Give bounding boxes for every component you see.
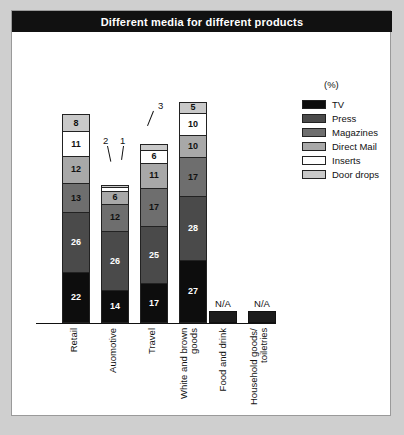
na-label-food-and-drink: N/A <box>206 298 240 309</box>
bar-travel: 611172517 <box>140 144 168 323</box>
unit-label: (%) <box>324 79 392 90</box>
callout-leader-2 <box>107 146 111 162</box>
legend-label-press: Press <box>332 113 356 124</box>
segment-white-and-brown-goods-inserts: 10 <box>179 113 207 136</box>
legend-swatch-door-drops <box>302 170 326 179</box>
segment-retail-direct-mail: 12 <box>62 156 90 184</box>
segment-travel-direct-mail: 11 <box>140 163 168 189</box>
callout-label-1: 1 <box>120 135 125 146</box>
segment-auomotive-magazines: 12 <box>101 204 129 232</box>
legend-item-inserts: Inserts <box>302 155 392 166</box>
segment-white-and-brown-goods-tv: 27 <box>179 260 207 323</box>
plot-area: 81112132622612261461117251751010172827 2… <box>12 32 392 416</box>
x-label-household-goods: Household goods/ toiletries <box>249 328 269 416</box>
x-label-food-and-drink: Food and drink <box>218 328 228 391</box>
segment-white-and-brown-goods-magazines: 17 <box>179 157 207 197</box>
chart-panel: Different media for different products 8… <box>11 10 391 416</box>
callout-leader-3 <box>147 111 154 126</box>
legend-swatch-tv <box>302 100 326 109</box>
legend-swatch-press <box>302 114 326 123</box>
segment-retail-door-drops: 8 <box>62 114 90 133</box>
chart-title-bar: Different media for different products <box>12 11 392 32</box>
segment-travel-press: 25 <box>140 226 168 284</box>
bar-retail: 81112132622 <box>62 114 90 323</box>
callout-label-3: 3 <box>158 100 163 111</box>
legend: (%) TV Press Magazines Direct Mail <box>302 79 392 183</box>
legend-label-direct-mail: Direct Mail <box>332 141 377 152</box>
bar-auomotive: 6122614 <box>101 185 129 323</box>
x-label-automotive: Auomotive <box>108 328 118 373</box>
callout-label-2: 2 <box>103 135 108 146</box>
na-label-household-goods: N/A <box>245 298 279 309</box>
segment-retail-tv: 22 <box>62 272 90 323</box>
x-label-retail: Retail <box>69 328 79 352</box>
callout-leader-1 <box>121 146 124 160</box>
legend-label-magazines: Magazines <box>332 127 378 138</box>
segment-retail-inserts: 11 <box>62 131 90 157</box>
page-title: Different media for different products <box>101 16 304 28</box>
bar-white-and-brown-goods: 51010172827 <box>179 102 207 323</box>
segment-retail-press: 26 <box>62 212 90 273</box>
x-label-travel: Travel <box>147 328 157 354</box>
segment-travel-tv: 17 <box>140 283 168 323</box>
legend-swatch-magazines <box>302 128 326 137</box>
legend-item-magazines: Magazines <box>302 127 392 138</box>
segment-auomotive-press: 26 <box>101 231 129 292</box>
legend-item-press: Press <box>302 113 392 124</box>
legend-item-tv: TV <box>302 99 392 110</box>
x-axis-baseline <box>36 323 276 324</box>
segment-auomotive-tv: 14 <box>101 290 129 323</box>
legend-swatch-direct-mail <box>302 142 326 151</box>
segment-travel-inserts: 6 <box>140 150 168 164</box>
segment-auomotive-direct-mail: 6 <box>101 191 129 205</box>
legend-item-door-drops: Door drops <box>302 169 392 180</box>
na-bar-food-and-drink <box>209 311 237 323</box>
legend-item-direct-mail: Direct Mail <box>302 141 392 152</box>
segment-white-and-brown-goods-direct-mail: 10 <box>179 135 207 158</box>
legend-swatch-inserts <box>302 156 326 165</box>
legend-label-door-drops: Door drops <box>332 169 379 180</box>
x-label-white-and-brown-goods: White and brown goods <box>179 328 199 416</box>
segment-white-and-brown-goods-press: 28 <box>179 196 207 261</box>
legend-label-tv: TV <box>332 99 344 110</box>
chart-page: Different media for different products 8… <box>0 0 404 435</box>
na-bar-household-goods <box>248 311 276 323</box>
segment-travel-magazines: 17 <box>140 188 168 228</box>
segment-retail-magazines: 13 <box>62 183 90 213</box>
legend-label-inserts: Inserts <box>332 155 361 166</box>
